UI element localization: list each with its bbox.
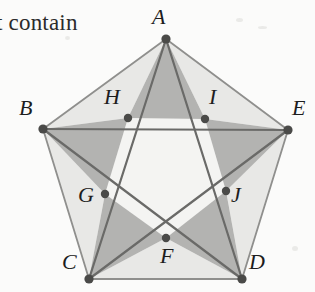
vertex-dot-H — [124, 114, 132, 122]
vertex-dot-A — [161, 34, 170, 43]
vertex-label-J: J — [231, 184, 241, 206]
chord-B-E — [43, 129, 288, 130]
vertex-label-F: F — [160, 245, 173, 267]
vertex-label-C: C — [62, 251, 77, 273]
vertex-dot-F — [162, 234, 170, 242]
vertex-label-E: E — [292, 97, 305, 119]
vertex-label-A: A — [152, 6, 165, 28]
vertex-label-I: I — [209, 86, 216, 108]
vertex-dot-E — [283, 125, 292, 134]
pentagram-figure — [0, 0, 315, 292]
vertex-dot-G — [101, 190, 109, 198]
vertex-label-G: G — [78, 184, 94, 206]
vertex-dot-I — [201, 115, 209, 123]
vertex-dot-B — [38, 124, 47, 133]
vertex-dot-J — [222, 187, 230, 195]
vertex-dot-D — [237, 274, 246, 283]
vertex-label-H: H — [104, 86, 120, 108]
vertex-label-B: B — [19, 97, 32, 119]
vertex-label-D: D — [249, 251, 265, 273]
figure-page: t contain — [0, 0, 315, 292]
vertex-dot-C — [84, 274, 93, 283]
